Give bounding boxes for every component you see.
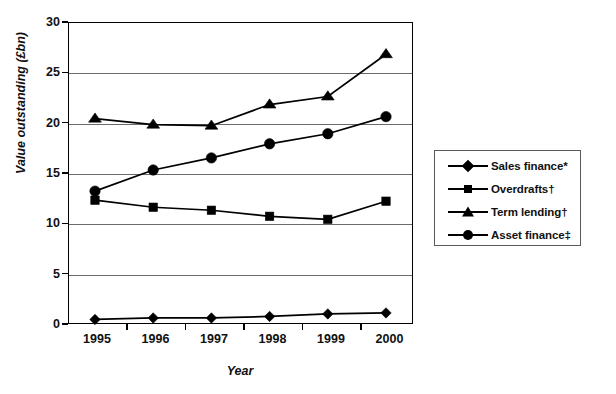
x-tick-label-1995: 1995 <box>67 333 127 346</box>
x-tick-label-1996: 1996 <box>126 333 186 346</box>
x-tick-mark-3 <box>243 324 245 330</box>
x-tick-label-1998: 1998 <box>243 333 303 346</box>
legend-entry-term-lending[interactable]: Term lending† <box>435 200 580 224</box>
legend-entry-sales-finance[interactable]: Sales finance* <box>435 154 580 178</box>
diamond-marker-icon <box>445 157 491 175</box>
triangle-marker-icon <box>445 203 491 221</box>
x-tick-label-1997: 1997 <box>184 333 244 346</box>
x-axis-title: Year <box>180 364 300 378</box>
x-tick-mark-2 <box>185 324 187 330</box>
x-tick-mark-1 <box>126 324 128 330</box>
legend-label-asset-finance: Asset finance‡ <box>491 229 571 241</box>
x-tick-mark-5 <box>360 324 362 330</box>
chart-figure: 30 25 20 15 10 5 0 Value outstanding (£b… <box>0 0 616 394</box>
legend-label-sales-finance: Sales finance* <box>491 160 568 172</box>
legend-label-overdrafts: Overdrafts† <box>491 183 554 195</box>
x-tick-mark-4 <box>302 324 304 330</box>
x-tick-label-1999: 1999 <box>301 333 361 346</box>
circle-marker-icon <box>445 226 491 244</box>
x-tick-label-2000: 2000 <box>360 333 420 346</box>
legend-entry-asset-finance[interactable]: Asset finance‡ <box>435 223 580 247</box>
legend-label-term-lending: Term lending† <box>491 206 567 218</box>
square-marker-icon <box>445 180 491 198</box>
chart-legend: Sales finance* Overdrafts† Term lending†… <box>434 150 581 246</box>
legend-entry-overdrafts[interactable]: Overdrafts† <box>435 177 580 201</box>
